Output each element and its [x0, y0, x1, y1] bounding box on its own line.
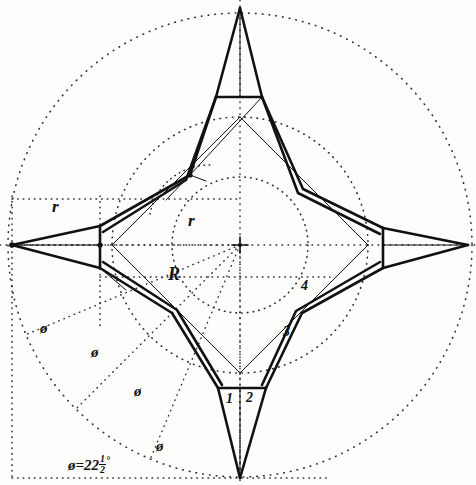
left-spike-lower-edge: [12, 245, 100, 268]
flank-lower-left-outer: [100, 268, 218, 388]
node-left-base: [97, 242, 102, 247]
angle-equation-symbol: ø: [68, 457, 76, 473]
label-R: R: [168, 264, 180, 285]
top-spike-right-edge: [240, 8, 262, 97]
flank-upper-right-outer: [262, 97, 383, 228]
construction-dotted-layer: [0, 0, 476, 485]
center-point-dot: [238, 243, 242, 247]
label-phi-sector-3: ø: [134, 383, 142, 400]
angle-equation-degree: °: [106, 455, 110, 466]
label-phi-sector-2: ø: [91, 344, 99, 361]
label-point-2: 2: [246, 390, 253, 406]
label-r-upper-left: r: [52, 197, 58, 217]
right-spike-lower-edge: [383, 245, 468, 268]
label-point-4: 4: [301, 278, 308, 294]
figure-root: r r R ø ø ø ø 1 2 3 4 ø=2212°: [0, 0, 476, 485]
left-spike-upper-edge: [12, 226, 100, 245]
node-left-apex: [9, 242, 15, 248]
angle-equation-value: 22: [84, 457, 99, 473]
fraction-denominator: 2: [99, 465, 106, 475]
label-phi-sector-1: ø: [40, 320, 48, 337]
bottom-spike-right-edge: [240, 388, 266, 478]
top-spike-left-edge: [216, 8, 240, 97]
label-angle-equation: ø=2212°: [68, 454, 110, 475]
angle-equation-operator: =: [76, 457, 85, 473]
diamond-edge-top-right: [240, 117, 368, 245]
flank-upper-right-inner: [262, 97, 380, 234]
node-upper-left: [187, 172, 192, 177]
angle-equation-fraction: 12: [99, 454, 106, 475]
label-r-inner: r: [188, 211, 194, 231]
right-spike-upper-edge: [383, 228, 468, 245]
label-point-3: 3: [283, 324, 290, 340]
label-phi-sector-4: ø: [156, 438, 164, 455]
diamond-edge-top-left: [112, 117, 240, 245]
label-point-1: 1: [226, 391, 233, 407]
diamond-edge-bottom-right: [240, 245, 368, 373]
construction-drawing: [0, 0, 476, 485]
